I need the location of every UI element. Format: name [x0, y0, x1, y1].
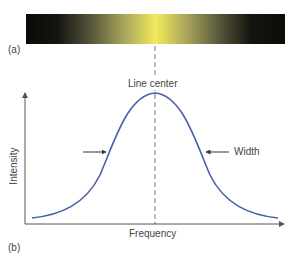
- y-axis-label: Intensity: [8, 142, 20, 190]
- line-profile-plot: [0, 0, 297, 259]
- width-label: Width: [234, 146, 260, 158]
- spectral-line-figure: (a) Line center Width Frequency Intensit…: [0, 0, 297, 259]
- line-center-label: Line center: [127, 78, 178, 90]
- panel-b-label: (b): [8, 242, 20, 254]
- x-axis-label: Frequency: [129, 228, 176, 240]
